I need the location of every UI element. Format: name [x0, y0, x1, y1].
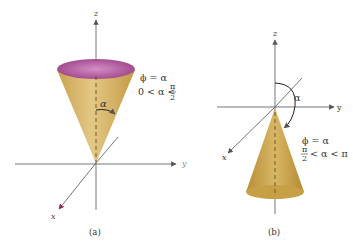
angle-label-a: α: [100, 98, 107, 109]
x-label-a: x: [51, 212, 56, 221]
fraction-b-num: π: [302, 145, 307, 154]
z-label-b: z: [272, 29, 278, 38]
figure-b: α z y x ϕ = α π 2 < α < π (b): [217, 29, 348, 237]
x-label-b: x: [222, 153, 227, 162]
caption-a: (a): [89, 227, 101, 237]
equation-a-line1: ϕ = α: [140, 72, 167, 83]
angle-label-b: α: [294, 92, 301, 103]
x-axis-a: [59, 163, 96, 209]
fraction-b-den: 2: [302, 154, 307, 163]
fraction-a-num: π: [170, 82, 175, 91]
equation-b-line2: < α < π: [310, 148, 348, 159]
y-label-b: y: [336, 103, 342, 112]
figure-a: α z x ϕ = α 0 < α < π 2 (a): [15, 9, 176, 237]
stray-y-label: y: [181, 159, 187, 168]
spherical-cone-diagram: α z x ϕ = α 0 < α < π 2 (a) α z y x ϕ = …: [0, 0, 353, 251]
fraction-a-den: 2: [170, 93, 175, 102]
z-label-a: z: [93, 9, 99, 18]
caption-b: (b): [268, 227, 280, 237]
